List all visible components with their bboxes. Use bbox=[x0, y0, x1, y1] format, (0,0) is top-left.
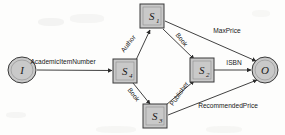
node-sub-S3: 3 bbox=[158, 117, 163, 125]
edge-label-recommendedprice: RecommendedPrice bbox=[198, 102, 258, 109]
edge-label-publisher: Publisher bbox=[168, 80, 190, 107]
edge-label-academicitemnumber: AcademicItemNumber bbox=[30, 58, 96, 65]
node-O[interactable]: O bbox=[252, 57, 278, 83]
node-label-S2: S bbox=[199, 64, 205, 76]
node-sub-S1: 1 bbox=[156, 17, 160, 25]
edge-label-book-bottom: Book bbox=[127, 86, 142, 103]
edge-S1-O bbox=[165, 21, 256, 61]
edges-layer bbox=[37, 21, 257, 115]
node-S3[interactable]: S 3 bbox=[143, 104, 167, 128]
node-label-S3: S bbox=[152, 110, 158, 122]
edge-label-maxprice: MaxPrice bbox=[213, 27, 241, 34]
node-sub-S4: 4 bbox=[129, 72, 133, 80]
node-label-S4: S bbox=[122, 65, 128, 77]
node-label-O: O bbox=[261, 64, 269, 76]
figure-canvas: I S 4 S 1 S 2 S 3 O bbox=[0, 0, 285, 135]
node-S1[interactable]: S 1 bbox=[140, 4, 164, 28]
edge-label-isbn: ISBN bbox=[226, 59, 242, 66]
edge-S4-S1 bbox=[136, 30, 150, 60]
node-label-S1: S bbox=[149, 10, 155, 22]
edge-I-S4 bbox=[37, 70, 112, 71]
node-S2[interactable]: S 2 bbox=[190, 58, 214, 82]
edge-label-author: Author bbox=[119, 33, 137, 53]
node-sub-S2: 2 bbox=[206, 71, 210, 79]
node-S4[interactable]: S 4 bbox=[113, 59, 137, 83]
graph-svg: I S 4 S 1 S 2 S 3 O bbox=[0, 0, 285, 135]
edge-label-book-top: Book bbox=[175, 31, 190, 48]
